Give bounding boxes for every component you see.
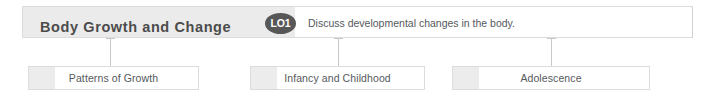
objective-description: Discuss developmental changes in the bod… bbox=[308, 18, 515, 29]
topic-label: Infancy and Childhood bbox=[251, 67, 424, 89]
objective-header: Body Growth and Change LO1 Discuss devel… bbox=[22, 6, 693, 38]
learning-objective-diagram: Body Growth and Change LO1 Discuss devel… bbox=[0, 0, 713, 99]
topic-box-adolescence[interactable]: Adolescence bbox=[452, 66, 650, 90]
connector-stem bbox=[110, 38, 111, 66]
topic-label: Patterns of Growth bbox=[29, 67, 198, 89]
page-title: Body Growth and Change bbox=[40, 20, 231, 35]
topic-box-infancy-and-childhood[interactable]: Infancy and Childhood bbox=[250, 66, 425, 90]
topic-box-patterns-of-growth[interactable]: Patterns of Growth bbox=[28, 66, 199, 90]
topic-label: Adolescence bbox=[453, 67, 649, 89]
learning-objective-badge: LO1 bbox=[265, 13, 296, 34]
connector-stem bbox=[551, 38, 552, 66]
learning-objective-badge-label: LO1 bbox=[265, 13, 296, 34]
connector-stem bbox=[338, 38, 339, 66]
